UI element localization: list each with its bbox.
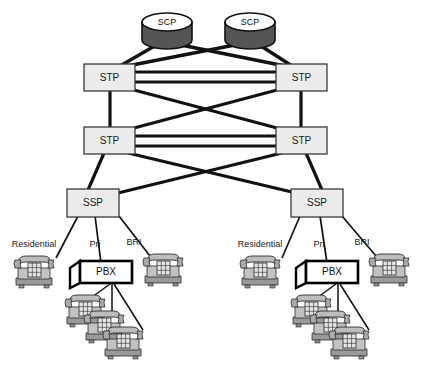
phone-ext-left-3[interactable] — [103, 327, 143, 359]
network-diagram: SCP SCP STP STP STP STP SSP — [0, 0, 432, 370]
phone-ext-right-3[interactable] — [329, 327, 369, 359]
stp-lower-right[interactable]: STP — [276, 127, 327, 154]
ssp-right-label: SSP — [307, 197, 327, 208]
scp-right[interactable]: SCP — [225, 13, 275, 49]
stp-lower-right-label: STP — [292, 135, 312, 146]
diagram-canvas: SCP SCP STP STP STP STP SSP — [0, 0, 432, 370]
label-bri-right: BRI — [354, 237, 369, 247]
pbx-left-side-panel — [70, 261, 80, 288]
edges-stp-to-ssp — [88, 153, 322, 193]
edge-ssp-left-to-residential — [56, 216, 78, 258]
stp-upper-right[interactable]: STP — [276, 64, 327, 91]
stp-lower-left-label: STP — [100, 135, 120, 146]
edges-stp-mesh — [110, 72, 301, 146]
phone-bri-right[interactable] — [369, 254, 409, 286]
scp-left-label: SCP — [158, 17, 177, 27]
pbx-left-label: PBX — [96, 266, 116, 277]
edge-ssp-right-to-residential — [282, 216, 300, 258]
edge-ssp-right-to-bri — [342, 216, 376, 256]
pbx-left[interactable]: PBX — [70, 261, 132, 288]
phone-bri-left[interactable] — [143, 254, 183, 286]
pbx-right-side-panel — [296, 261, 306, 288]
edge-stp-lower-right-to-ssp-left — [118, 153, 282, 193]
edge-stp-lower-left-to-ssp-left — [88, 153, 104, 190]
scp-right-label: SCP — [241, 17, 260, 27]
label-pri-left: Pri — [90, 239, 101, 249]
phone-residential-right[interactable] — [240, 256, 280, 288]
label-residential-left: Residential — [12, 239, 57, 249]
edge-stp-lower-left-to-ssp-right — [128, 153, 296, 193]
stp-upper-left[interactable]: STP — [84, 64, 135, 91]
scp-left[interactable]: SCP — [142, 13, 192, 49]
ssp-left[interactable]: SSP — [67, 189, 119, 217]
stp-lower-left[interactable]: STP — [84, 127, 135, 154]
edge-ssp-left-to-bri — [119, 216, 150, 256]
label-pri-right: Pri — [314, 239, 325, 249]
edge-stp-lower-right-to-ssp-right — [306, 153, 322, 190]
pbx-right[interactable]: PBX — [296, 261, 358, 288]
ssp-left-label: SSP — [83, 197, 103, 208]
stp-upper-left-label: STP — [100, 72, 120, 83]
phone-residential-left[interactable] — [14, 256, 54, 288]
label-residential-right: Residential — [238, 239, 283, 249]
label-bri-left: BRI — [126, 237, 141, 247]
stp-upper-right-label: STP — [292, 72, 312, 83]
ssp-right[interactable]: SSP — [291, 189, 343, 217]
pbx-right-label: PBX — [322, 266, 342, 277]
